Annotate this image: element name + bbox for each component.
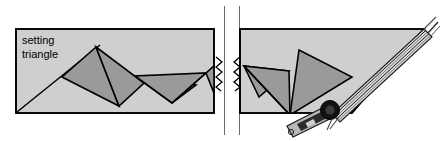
label-line-2: triangle [22,48,58,60]
setting-triangle-diagram: setting triangle [0,0,442,141]
break-symbol [216,0,240,141]
figure-canvas: setting triangle [0,0,442,141]
bevel-gauge-pivot-center [326,106,335,115]
label-line-1: setting [22,34,54,46]
